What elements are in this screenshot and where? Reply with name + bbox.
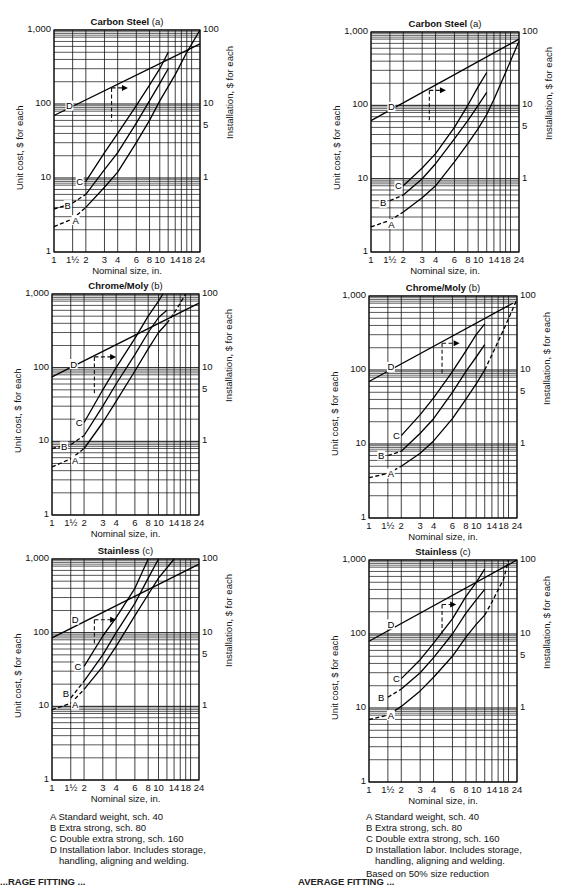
curve-label-b: B <box>65 200 71 211</box>
x-axis-label: Nominal size, in. <box>408 795 478 806</box>
x-tick: 10 <box>153 782 164 793</box>
plot-area: DCBA <box>369 296 517 518</box>
chart-panel-left-a: Carbon Steel (a)DCBA1101001,000151010011… <box>54 30 200 252</box>
curve-label-a: A <box>72 699 79 710</box>
y-left-tick: 1 <box>361 511 366 522</box>
chart-title-sub: (b) <box>151 280 163 291</box>
y-axis-label-left: Unit cost, $ for each <box>329 635 340 719</box>
curve-label-b: B <box>378 450 384 461</box>
chart-title-sub: (c) <box>142 545 153 556</box>
arrow-head-icon <box>450 602 456 608</box>
curve-label-b: B <box>378 692 384 703</box>
x-tick: 10 <box>471 520 482 531</box>
y-left-tick: 1,000 <box>342 553 366 564</box>
x-tick: 24 <box>512 784 523 795</box>
curve-b <box>401 345 484 452</box>
legend-item-d-cont: handling, aligning and welding. <box>366 855 522 866</box>
x-tick: 2 <box>401 254 406 265</box>
y-left-tick: 1 <box>361 775 366 786</box>
curve-label-c: C <box>393 673 400 684</box>
legend-item-d-cont: handling, aligning and welding. <box>50 855 206 866</box>
chart-panel-right-b: Chrome/Moly (b)DCBA1101001,000151010011½… <box>369 296 517 518</box>
x-tick: 18 <box>498 520 509 531</box>
arrow-head-icon <box>110 354 116 360</box>
curve-a <box>388 615 485 715</box>
curve-label-d: D <box>72 614 79 625</box>
y-right-tick: 100 <box>203 23 219 34</box>
plot-area: DCBA <box>54 30 200 252</box>
x-tick: 14 <box>169 517 180 528</box>
curve-a <box>84 323 167 448</box>
plot-area: DCBA <box>371 32 519 252</box>
y-left-tick: 10 <box>355 701 366 712</box>
x-tick: 18 <box>180 517 191 528</box>
x-tick: 1½ <box>66 254 79 265</box>
curve-label-c: C <box>74 661 81 672</box>
curve-a <box>86 30 200 207</box>
curve-a-dashed <box>369 466 401 477</box>
curve-label-a: A <box>72 455 79 466</box>
y-left-tick: 1 <box>46 245 51 256</box>
chart-title-text: Chrome/Moly <box>406 282 466 293</box>
y-right-tick: 5 <box>203 119 208 130</box>
x-tick: 3 <box>100 782 105 793</box>
curve-label-d: D <box>70 359 77 370</box>
x-axis-label: Nominal size, in. <box>92 265 162 276</box>
x-tick: 1 <box>366 784 371 795</box>
curve-a-ext-dashed <box>167 294 186 323</box>
x-tick: 3 <box>102 254 107 265</box>
y-right-tick: 5 <box>520 649 525 660</box>
curve-label-a: A <box>388 219 395 230</box>
y-axis-label-right: Installation, $ for each <box>223 574 234 667</box>
figure-caption-left: ...RAGE FITTING ... <box>0 876 86 887</box>
x-tick: 14 <box>169 782 180 793</box>
arrow-head-icon <box>440 87 446 93</box>
x-axis-label: Nominal size, in. <box>410 265 480 276</box>
x-tick: 6 <box>450 784 455 795</box>
curve-d <box>54 44 200 116</box>
x-tick: 2 <box>399 520 404 531</box>
curve-label-c: C <box>76 417 83 428</box>
x-tick: 3 <box>418 784 423 795</box>
chart-title-text: Chrome/Moly <box>88 280 148 291</box>
x-tick: 1 <box>366 520 371 531</box>
legend-item-c: C Double extra strong, sch. 160 <box>366 833 522 844</box>
x-tick: 18 <box>500 254 511 265</box>
y-right-tick: 100 <box>202 287 218 298</box>
legend-right: A Standard weight, sch. 40 B Extra stron… <box>366 811 522 879</box>
y-right-tick: 1 <box>520 437 525 448</box>
x-tick: 14 <box>170 254 181 265</box>
x-tick: 2 <box>81 517 86 528</box>
x-axis-label: Nominal size, in. <box>91 528 161 539</box>
y-right-tick: 100 <box>520 289 536 300</box>
x-tick: 4 <box>113 782 118 793</box>
plot-area: DCBA <box>52 559 199 780</box>
x-tick: 6 <box>132 517 137 528</box>
x-tick: 24 <box>195 254 206 265</box>
curve-label-c: C <box>76 176 83 187</box>
chart-title-text: Stainless <box>98 545 140 556</box>
x-tick: 10 <box>471 784 482 795</box>
chart-panel-right-c: Stainless (c)DCBA1101001,000151010011½23… <box>369 560 517 782</box>
x-tick: 8 <box>146 517 151 528</box>
y-right-tick: 10 <box>520 627 531 638</box>
curve-label-c: C <box>393 430 400 441</box>
curve-c <box>403 73 486 186</box>
x-tick: 14 <box>487 520 498 531</box>
x-tick: 4 <box>431 520 436 531</box>
y-left-tick: 10 <box>357 172 368 183</box>
x-tick: 1 <box>51 254 56 265</box>
x-tick: 1½ <box>383 254 396 265</box>
x-tick: 10 <box>154 254 165 265</box>
y-right-tick: 100 <box>202 552 218 563</box>
x-tick: 1½ <box>381 784 394 795</box>
x-tick: 3 <box>418 520 423 531</box>
y-right-tick: 5 <box>202 648 207 659</box>
chart-title: Stainless (c) <box>98 545 153 556</box>
y-left-tick: 100 <box>35 97 51 108</box>
legend-item-b: B Extra strong, sch. 80 <box>50 822 206 833</box>
x-tick: 24 <box>194 517 205 528</box>
curve-label-a: A <box>388 710 395 721</box>
curve-a <box>403 41 519 212</box>
x-tick: 3 <box>100 517 105 528</box>
